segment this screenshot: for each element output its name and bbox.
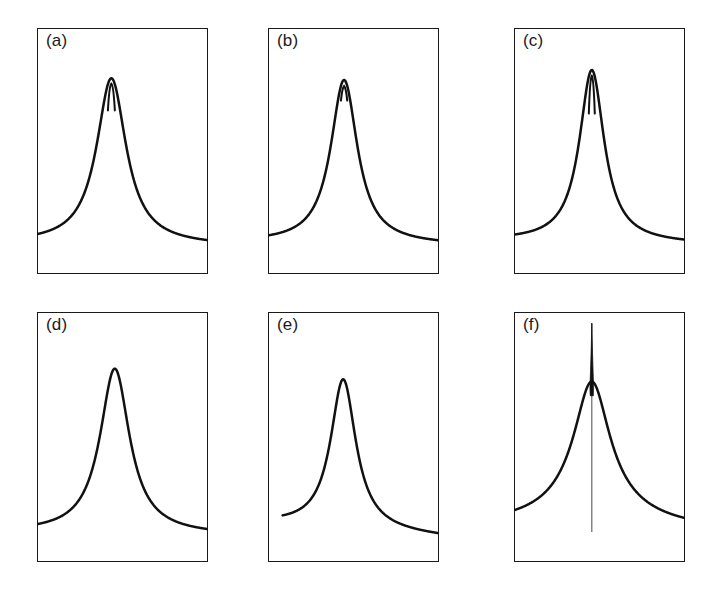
panel-e-curve	[283, 379, 439, 533]
panel-f-label: (f)	[523, 316, 540, 335]
panel-e: (e)	[268, 312, 439, 562]
panel-c-label: (c)	[523, 32, 543, 51]
panel-f-spike	[590, 323, 594, 396]
panel-e-label: (e)	[277, 316, 298, 335]
panel-f: (f)	[514, 312, 685, 562]
panel-a-curve	[37, 78, 208, 240]
panel-a-plot	[37, 28, 208, 274]
panel-b-label: (b)	[277, 32, 298, 51]
panel-f-curve	[514, 382, 685, 518]
panel-a-label: (a)	[46, 32, 67, 51]
panel-c-curve	[514, 70, 685, 240]
panel-e-plot	[268, 312, 439, 562]
panel-c-plot	[514, 28, 685, 274]
panel-f-plot	[514, 312, 685, 562]
panel-d: (d)	[37, 312, 208, 562]
panel-b-curve	[268, 80, 439, 240]
panel-a: (a)	[37, 28, 208, 274]
panel-b: (b)	[268, 28, 439, 274]
panel-d-label: (d)	[46, 316, 67, 335]
figure-root: (a)(b)(c)(d)(e)(f)	[0, 0, 716, 593]
panel-d-plot	[37, 312, 208, 562]
panel-b-plot	[268, 28, 439, 274]
panel-c: (c)	[514, 28, 685, 274]
panel-d-curve	[37, 369, 208, 529]
